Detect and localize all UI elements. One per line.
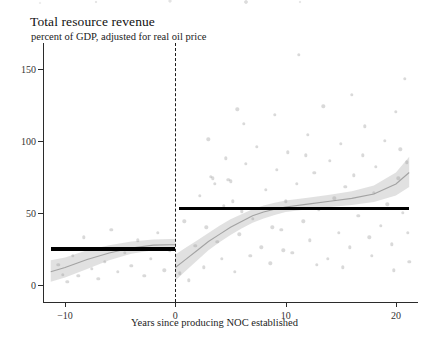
chart-title: Total resource revenue xyxy=(30,14,155,30)
fit-curves-overlay xyxy=(43,43,418,302)
y-tick xyxy=(38,213,43,214)
y-tick xyxy=(38,141,43,142)
figure-container: Total resource revenue percent of GDP, a… xyxy=(0,0,429,347)
y-tick-label: 100 xyxy=(21,135,36,146)
x-tick xyxy=(65,302,66,307)
cutoff-dashed-line xyxy=(175,43,176,302)
chart-subtitle: percent of GDP, adjusted for real oil pr… xyxy=(31,31,207,42)
plot-area: 050100150 xyxy=(43,43,418,302)
x-axis-line xyxy=(43,302,418,303)
y-tick-label: 150 xyxy=(21,63,36,74)
y-tick xyxy=(38,285,43,286)
y-tick-label: 0 xyxy=(31,279,36,290)
x-tick xyxy=(175,302,176,307)
x-axis-label: Years since producing NOC established xyxy=(0,317,429,328)
step-level-line xyxy=(179,207,410,211)
step-level-line xyxy=(51,247,176,251)
x-tick xyxy=(286,302,287,307)
y-tick-label: 50 xyxy=(26,207,36,218)
x-tick xyxy=(396,302,397,307)
y-tick xyxy=(38,69,43,70)
page-bleed-artifact xyxy=(0,0,429,4)
